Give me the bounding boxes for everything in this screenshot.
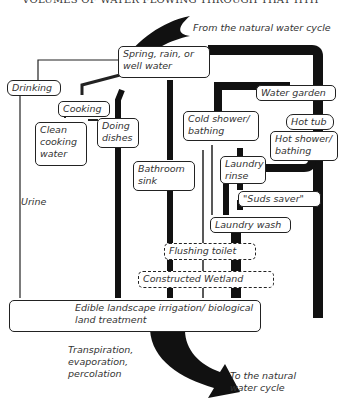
- node-bathroom-sink: Bathroom sink: [133, 161, 195, 191]
- node-source: Spring, rain, or well water: [118, 46, 210, 78]
- label-to-cycle: To the natural water cycle: [230, 370, 302, 394]
- label-urine: Urine: [21, 196, 46, 208]
- node-doing-dishes: Doing dishes: [97, 118, 139, 148]
- node-flushing-toilet: Flushing toilet: [164, 243, 256, 260]
- node-constructed-wetland: Constructed Wetland: [138, 271, 274, 288]
- label-transpiration: Transpiration, evaporation, percolation: [68, 344, 138, 380]
- node-suds-saver: "Suds saver": [238, 191, 321, 207]
- node-laundry-wash: Laundry wash: [210, 217, 291, 233]
- node-clean-cooking-water: Clean cooking water: [35, 122, 87, 166]
- node-drinking: Drinking: [7, 80, 61, 96]
- node-cooking: Cooking: [58, 101, 110, 117]
- node-irrigation: Edible landscape irrigation/ biological …: [9, 300, 261, 332]
- node-hot-tub: Hot tub: [286, 114, 334, 130]
- label-from-cycle: From the natural water cycle: [193, 22, 331, 34]
- node-water-garden: Water garden: [256, 85, 336, 101]
- node-laundry-rinse: Laundry rinse: [220, 156, 266, 184]
- node-hot-shower: Hot shower/ bathing: [270, 131, 338, 161]
- node-cold-shower: Cold shower/ bathing: [183, 111, 259, 141]
